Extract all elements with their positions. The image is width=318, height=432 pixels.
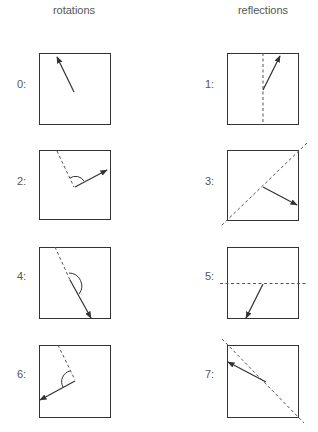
panel-2 (40, 151, 111, 220)
panel-0 (40, 54, 111, 125)
square-2 (40, 151, 111, 220)
panel-7 (222, 339, 304, 423)
panel-1 (228, 53, 299, 125)
angle-arc-2 (70, 176, 84, 181)
reference-line-6 (58, 345, 75, 380)
arrow-4 (70, 280, 91, 318)
arrow-3 (263, 187, 297, 205)
arrow-1 (263, 56, 280, 90)
reflection-axis-3 (220, 143, 307, 227)
reference-line-2 (57, 151, 74, 187)
arrow-6 (40, 381, 75, 400)
square-4 (40, 248, 111, 319)
arrow-7 (228, 362, 266, 382)
symmetry-diagram (0, 0, 318, 432)
panel-5 (220, 248, 308, 319)
panel-4 (40, 247, 111, 319)
arrow-0 (57, 57, 74, 92)
square-0 (40, 54, 111, 125)
panel-6 (40, 345, 111, 418)
reference-line-4 (55, 247, 70, 280)
panel-3 (220, 143, 307, 227)
arrow-2 (75, 170, 107, 187)
arrow-5 (246, 284, 263, 318)
